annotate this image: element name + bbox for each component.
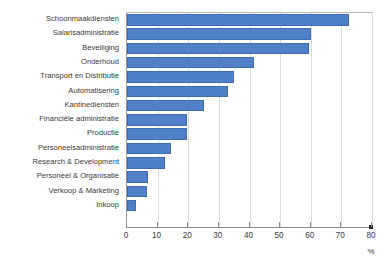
bar	[127, 171, 148, 183]
x-tick	[279, 222, 280, 227]
category-axis-labels: SchoonmaakdienstenSalarisadministratieBe…	[0, 12, 122, 226]
bar	[127, 200, 136, 212]
x-tick-label: 80	[351, 231, 391, 240]
x-tick	[310, 222, 311, 227]
bar-row	[127, 170, 372, 184]
bar-row	[127, 199, 372, 213]
x-axis-line	[126, 227, 372, 228]
bar-row	[127, 42, 372, 56]
category-label: Beveiliging	[82, 41, 119, 55]
category-label: Personeel & Organisatie	[37, 169, 119, 183]
bar-row	[127, 27, 372, 41]
x-tick	[187, 222, 188, 227]
bar	[127, 114, 187, 126]
bar	[127, 14, 349, 26]
bar-row	[127, 13, 372, 27]
category-label: Transport en Distributie	[40, 69, 119, 83]
x-tick	[157, 222, 158, 227]
bar	[127, 128, 187, 140]
bar-row	[127, 142, 372, 156]
x-tick	[249, 222, 250, 227]
category-label: Kantinediensten	[65, 98, 119, 112]
category-label: Financiële administratie	[39, 112, 119, 126]
bar-row	[127, 99, 372, 113]
category-label: Research & Development	[32, 155, 119, 169]
bar-row	[127, 156, 372, 170]
bar	[127, 157, 165, 169]
bar	[127, 186, 147, 198]
bar-row	[127, 185, 372, 199]
category-label: Automatisering	[68, 84, 119, 98]
x-tick	[218, 222, 219, 227]
category-label: Verkoop & Marketing	[49, 184, 120, 198]
plot-area	[126, 12, 373, 227]
x-tick	[371, 222, 372, 227]
bar-row	[127, 127, 372, 141]
bar-row	[127, 85, 372, 99]
bar	[127, 143, 171, 155]
category-label: Salarisadministratie	[53, 26, 119, 40]
bar	[127, 43, 309, 55]
category-label: Productie	[87, 126, 119, 140]
category-label: Inkoop	[96, 198, 119, 212]
x-tick	[126, 222, 127, 227]
bar	[127, 71, 234, 83]
category-label: Schoonmaakdiensten	[46, 12, 119, 26]
horizontal-bar-chart: SchoonmaakdienstenSalarisadministratieBe…	[0, 0, 391, 268]
bar	[127, 86, 228, 98]
x-tick	[340, 222, 341, 227]
bar-row	[127, 56, 372, 70]
category-label: Personeelsadministratie	[38, 141, 119, 155]
bar	[127, 28, 311, 40]
bar-row	[127, 70, 372, 84]
bar	[127, 100, 204, 112]
bar-row	[127, 113, 372, 127]
category-label: Onderhoud	[81, 55, 119, 69]
bar	[127, 57, 254, 69]
x-axis-title: %	[351, 247, 391, 256]
gridline	[372, 13, 373, 227]
